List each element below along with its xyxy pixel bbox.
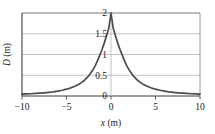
chart-figure: −10−5051000.511.52x (m)D (m): [0, 0, 215, 134]
y-tick-label-0: 0: [102, 91, 107, 101]
y-tick-label-1: 0.5: [95, 71, 107, 81]
plot-area: −10−5051000.511.52x (m)D (m): [0, 0, 215, 134]
x-axis-title: x (m): [100, 118, 121, 129]
x-tick-label-3: 5: [153, 102, 158, 112]
x-tick-label-0: −10: [15, 102, 30, 112]
x-tick-label-4: 10: [195, 102, 205, 112]
x-tick-label-1: −5: [61, 102, 71, 112]
y-tick-label-4: 2: [102, 8, 107, 18]
x-tick-label-2: 0: [109, 102, 114, 112]
y-tick-label-2: 1: [102, 50, 107, 60]
y-axis-title: D (m): [2, 43, 13, 67]
